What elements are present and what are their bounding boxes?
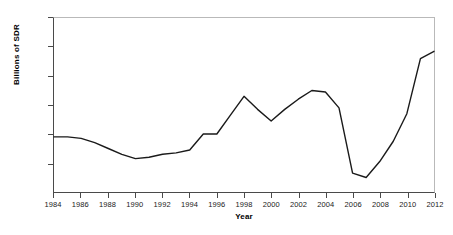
x-tick-mark	[326, 193, 327, 198]
x-tick-label: 1986	[72, 200, 89, 209]
x-tick-mark	[80, 193, 81, 198]
x-tick-label: 2008	[372, 200, 389, 209]
x-tick-label: 1996	[208, 200, 225, 209]
x-tick-label: 2006	[345, 200, 362, 209]
y-tick-mark	[48, 46, 53, 47]
x-tick-label: 2000	[263, 200, 280, 209]
x-tick-label: 1984	[44, 200, 61, 209]
x-tick-mark	[217, 193, 218, 198]
x-tick-mark	[408, 193, 409, 198]
x-tick-label: 2012	[426, 200, 443, 209]
y-tick-mark	[48, 17, 53, 18]
x-tick-label: 2002	[290, 200, 307, 209]
x-tick-mark	[435, 193, 436, 198]
data-series-line	[54, 18, 434, 192]
y-tick-mark	[48, 76, 53, 77]
x-tick-label: 1998	[235, 200, 252, 209]
y-tick-mark	[48, 164, 53, 165]
x-tick-mark	[53, 193, 54, 198]
x-axis-title: Year	[53, 212, 435, 221]
line-chart: Billions of SDR Year 2040608010012019841…	[0, 0, 453, 235]
y-axis-title: Billions of SDR	[12, 0, 21, 110]
x-tick-label: 1994	[181, 200, 198, 209]
plot-area	[53, 17, 435, 193]
x-tick-label: 2010	[399, 200, 416, 209]
x-tick-mark	[189, 193, 190, 198]
x-tick-label: 2004	[317, 200, 334, 209]
x-tick-mark	[299, 193, 300, 198]
x-tick-label: 1988	[99, 200, 116, 209]
x-tick-mark	[108, 193, 109, 198]
x-tick-label: 1990	[126, 200, 143, 209]
x-tick-mark	[162, 193, 163, 198]
x-tick-mark	[135, 193, 136, 198]
x-tick-mark	[271, 193, 272, 198]
x-tick-mark	[353, 193, 354, 198]
y-tick-mark	[48, 134, 53, 135]
x-tick-mark	[380, 193, 381, 198]
x-tick-label: 1992	[154, 200, 171, 209]
y-tick-mark	[48, 105, 53, 106]
x-tick-mark	[244, 193, 245, 198]
